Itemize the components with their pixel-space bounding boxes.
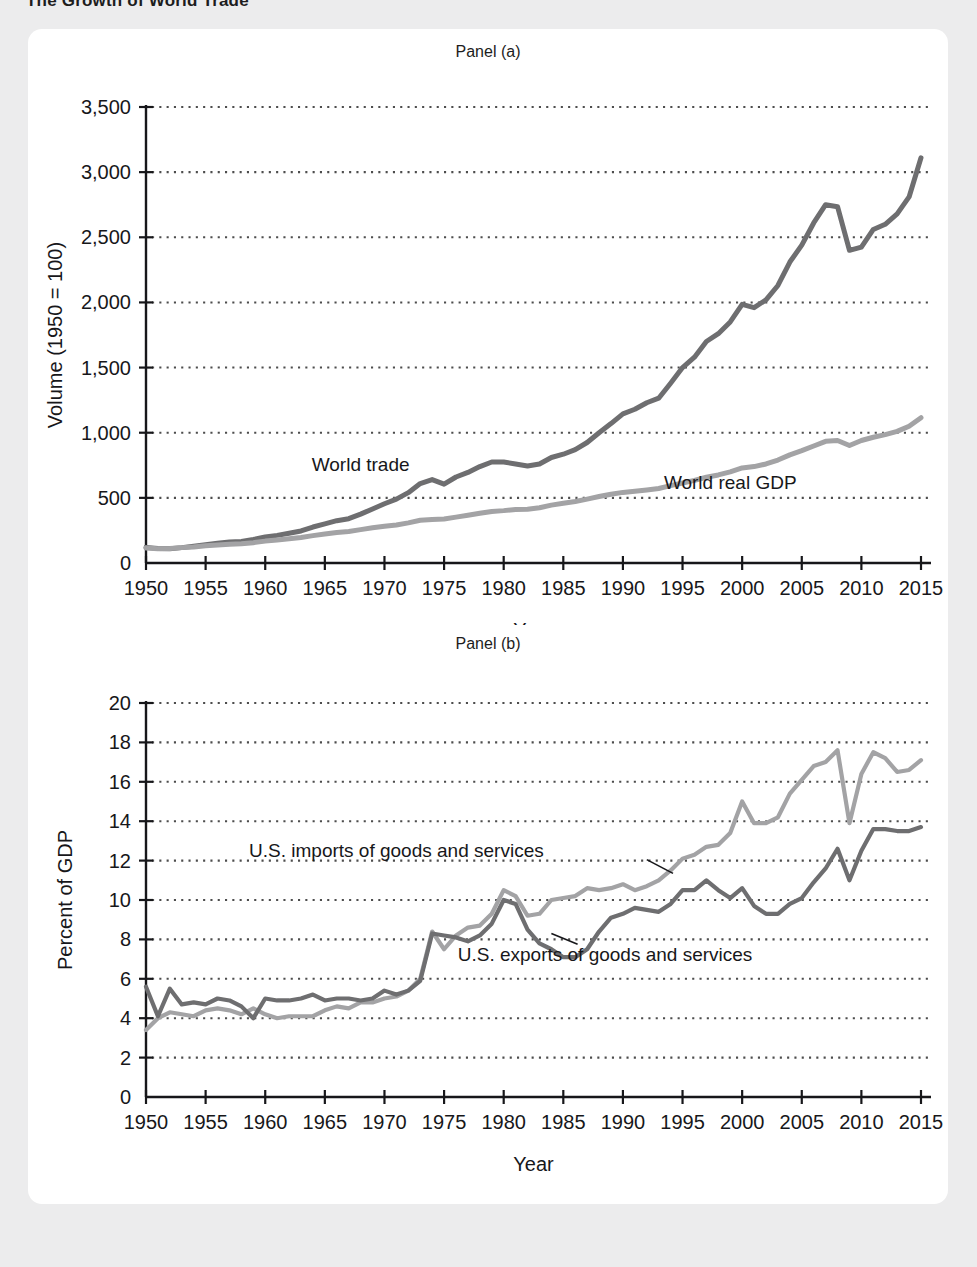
x-tick-label: 1950	[124, 1111, 169, 1133]
x-tick-label: 1990	[601, 577, 646, 599]
series-label-leader	[647, 860, 673, 874]
x-tick-label: 2000	[720, 1111, 765, 1133]
x-tick-label: 1995	[660, 577, 705, 599]
series-line	[146, 158, 921, 549]
y-tick-label: 3,000	[81, 161, 131, 183]
x-tick-label: 1980	[481, 1111, 526, 1133]
y-tick-label: 2,000	[81, 291, 131, 313]
series-line	[146, 418, 921, 549]
x-tick-label: 1975	[422, 1111, 467, 1133]
x-tick-label: 1970	[362, 577, 407, 599]
x-tick-label: 1960	[243, 577, 288, 599]
y-tick-label: 0	[120, 552, 131, 574]
x-tick-label: 2005	[780, 1111, 825, 1133]
y-axis-title: Percent of GDP	[54, 830, 76, 970]
x-tick-label: 1975	[422, 577, 467, 599]
series-label: World trade	[312, 454, 410, 475]
x-tick-label: 1985	[541, 1111, 586, 1133]
y-tick-label: 10	[109, 889, 131, 911]
x-tick-label: 1980	[481, 577, 526, 599]
x-tick-label: 2010	[839, 1111, 884, 1133]
y-tick-label: 16	[109, 771, 131, 793]
x-tick-label: 1965	[303, 1111, 348, 1133]
x-tick-label: 1970	[362, 1111, 407, 1133]
x-tick-label: 1995	[660, 1111, 705, 1133]
series-line	[146, 750, 921, 1030]
x-tick-label: 2005	[780, 577, 825, 599]
y-tick-label: 2,500	[81, 226, 131, 248]
x-tick-label: 2015	[899, 577, 944, 599]
panel-a-plot: 05001,0001,5002,0002,5003,0003,500195019…	[28, 35, 948, 625]
x-tick-label: 1955	[183, 1111, 228, 1133]
panel-a: Panel (a) 05001,0001,5002,0002,5003,0003…	[28, 35, 948, 625]
x-tick-label: 1990	[601, 1111, 646, 1133]
x-axis-title: Year	[513, 619, 554, 625]
y-tick-label: 3,500	[81, 96, 131, 118]
x-tick-label: 1950	[124, 577, 169, 599]
x-tick-label: 1965	[303, 577, 348, 599]
x-tick-label: 2010	[839, 577, 884, 599]
x-axis-title: Year	[513, 1153, 554, 1175]
series-label: U.S. imports of goods and services	[249, 840, 544, 861]
x-tick-label: 1955	[183, 577, 228, 599]
y-tick-label: 18	[109, 731, 131, 753]
series-label: World real GDP	[664, 472, 797, 493]
x-tick-label: 2015	[899, 1111, 944, 1133]
y-tick-label: 500	[98, 487, 131, 509]
figure-title: The Growth of World Trade	[26, 0, 249, 11]
y-tick-label: 20	[109, 692, 131, 714]
x-tick-label: 1985	[541, 577, 586, 599]
y-tick-label: 4	[120, 1007, 131, 1029]
y-tick-label: 12	[109, 850, 131, 872]
x-tick-label: 2000	[720, 577, 765, 599]
panel-b: Panel (b) 024681012141618201950195519601…	[28, 627, 948, 1199]
y-axis-title: Volume (1950 = 100)	[44, 242, 66, 428]
y-tick-label: 1,000	[81, 422, 131, 444]
x-tick-label: 1960	[243, 1111, 288, 1133]
y-tick-label: 2	[120, 1047, 131, 1069]
chart-card: Panel (a) 05001,0001,5002,0002,5003,0003…	[28, 29, 948, 1204]
y-tick-label: 6	[120, 968, 131, 990]
y-tick-label: 14	[109, 810, 131, 832]
y-tick-label: 0	[120, 1086, 131, 1108]
series-label: U.S. exports of goods and services	[458, 944, 753, 965]
panel-b-plot: 0246810121416182019501955196019651970197…	[28, 627, 948, 1199]
y-tick-label: 1,500	[81, 357, 131, 379]
y-tick-label: 8	[120, 928, 131, 950]
